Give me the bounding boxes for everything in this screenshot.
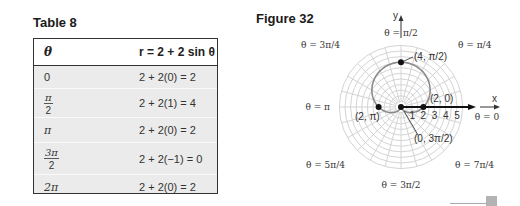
angle-label: θ = π/2 <box>384 28 417 38</box>
radial-tick-label: 1 <box>409 110 415 121</box>
polar-axis-arrow <box>468 104 476 110</box>
radial-tick-label: 4 <box>443 110 449 121</box>
x-axis-arrow <box>494 105 500 110</box>
y-axis-label: y <box>393 10 398 21</box>
page-indicator-box[interactable] <box>486 196 497 206</box>
radial-tick-label: 3 <box>432 110 438 121</box>
angle-label: θ = 5π/4 <box>306 160 345 170</box>
point-marker <box>398 59 404 65</box>
x-axis-label: x <box>492 93 497 104</box>
angle-label: θ = π/4 <box>458 40 492 50</box>
point-label: (0, 3π/2) <box>414 133 453 144</box>
point-marker <box>376 104 382 110</box>
point-label: (2, π) <box>355 111 380 122</box>
angle-label: θ = 7π/4 <box>455 160 494 170</box>
radial-tick-label: 2 <box>421 110 427 121</box>
angle-label: θ = 3π/4 <box>301 40 340 50</box>
angle-label: θ = 3π/2 <box>381 180 420 190</box>
radial-tick-label: 5 <box>454 110 460 121</box>
polar-graph: yx12345θ = 0θ = π/4θ = π/2θ = 3π/4θ = πθ… <box>0 0 520 206</box>
page-indicator-line <box>450 203 486 204</box>
point-label: (2, 0) <box>430 93 453 104</box>
angle-label: θ = 0 <box>475 112 500 122</box>
y-axis-arrow <box>399 15 404 21</box>
angle-label: θ = π <box>305 102 330 112</box>
point-label: (4, π/2) <box>414 51 447 62</box>
point-marker <box>398 104 404 110</box>
